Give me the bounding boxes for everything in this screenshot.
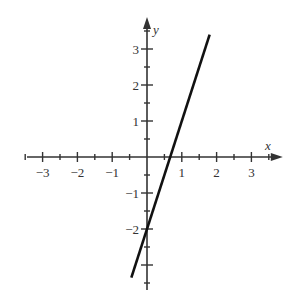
y-tick-label: 3 xyxy=(133,42,140,57)
x-tick-label: 1 xyxy=(179,165,186,180)
x-tick-label: −1 xyxy=(105,165,119,180)
axes xyxy=(27,17,283,290)
data-line xyxy=(131,35,209,278)
y-tick-label: −1 xyxy=(125,186,139,201)
y-axis-arrow-icon xyxy=(143,17,151,29)
x-axis-arrow-icon xyxy=(271,153,283,161)
coordinate-plane: −3−2−1123321−1−2 x y xyxy=(0,0,287,294)
x-tick-label: −3 xyxy=(36,165,50,180)
x-tick-label: 2 xyxy=(213,165,220,180)
y-tick-label: 2 xyxy=(133,78,140,93)
y-tick-label: −2 xyxy=(125,222,139,237)
y-axis-label: y xyxy=(151,22,159,37)
data-series xyxy=(131,35,209,278)
x-tick-label: 3 xyxy=(248,165,255,180)
y-tick-label: 1 xyxy=(133,114,140,129)
x-axis-label: x xyxy=(264,138,271,153)
x-tick-label: −2 xyxy=(70,165,84,180)
